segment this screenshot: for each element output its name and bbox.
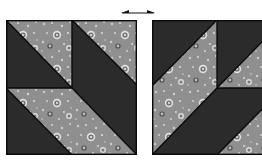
quilt-block-left — [6, 20, 137, 155]
quilt-block-right — [152, 20, 262, 155]
